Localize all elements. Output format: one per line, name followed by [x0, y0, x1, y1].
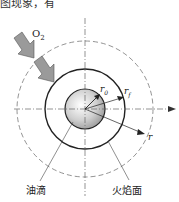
- droplet-leader: [40, 122, 73, 181]
- rf-label: rf: [124, 86, 131, 98]
- oxygen-label: O2: [32, 28, 45, 42]
- r-label: r: [148, 132, 152, 142]
- r0-label: r0: [100, 84, 108, 96]
- flame-surface-label: 火焰面: [112, 182, 142, 197]
- flame-leader: [108, 141, 129, 180]
- axis-arrow-icon: [168, 106, 176, 112]
- droplet-label: 油滴: [26, 182, 46, 197]
- droplet-combustion-diagram: [0, 0, 179, 202]
